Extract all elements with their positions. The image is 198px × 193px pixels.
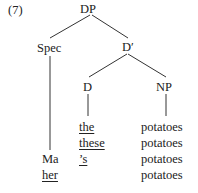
np-word: potatoes [141, 168, 183, 182]
node-np: NP [156, 80, 172, 94]
node-d: D [83, 80, 92, 94]
d-word: the [79, 120, 94, 134]
d-word: ’s [79, 152, 87, 166]
spec-word: her [42, 168, 58, 182]
np-word: potatoes [141, 120, 183, 134]
spec-word: Ma [42, 152, 59, 166]
d-word: these [79, 136, 105, 150]
branch-dbar-d [89, 54, 127, 77]
example-number: (7) [8, 3, 23, 17]
node-dp: DP [80, 2, 96, 16]
node-spec: Spec [37, 41, 61, 55]
node-dbar: D′ [122, 40, 134, 54]
branch-dbar-np [128, 54, 166, 77]
np-word: potatoes [141, 152, 183, 166]
np-word: potatoes [141, 136, 183, 150]
branch-dp-dbar [92, 15, 128, 38]
branch-dp-spec [50, 15, 90, 38]
